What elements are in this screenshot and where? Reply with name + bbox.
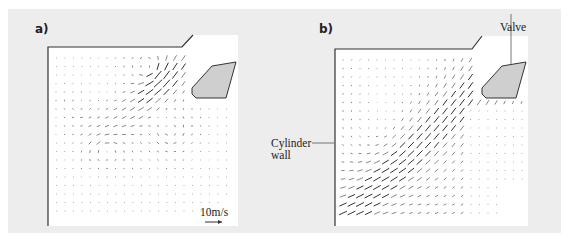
velocity-vector: [368, 68, 369, 69]
velocity-vector: [368, 128, 369, 129]
cylinder-wall-annotation-line2: wall: [271, 149, 291, 161]
velocity-vector: [470, 119, 471, 120]
velocity-vector: [411, 68, 412, 69]
panel-b-plot: [312, 14, 528, 226]
velocity-vector: [419, 60, 420, 61]
velocity-vector: [470, 111, 471, 112]
velocity-vector: [479, 111, 480, 112]
figure-svg: 10m/s: [0, 0, 569, 241]
velocity-vector: [158, 168, 159, 169]
velocity-vector: [377, 94, 378, 95]
velocity-vector: [368, 60, 369, 61]
velocity-vector: [368, 77, 369, 78]
panel-b-chamber: [335, 36, 528, 226]
cylinder-wall-annotation-line1: Cylinder: [271, 137, 311, 149]
velocity-vector: [115, 177, 116, 178]
valve-annotation: Valve: [500, 21, 526, 33]
velocity-vector: [360, 77, 361, 78]
velocity-vector: [64, 83, 65, 84]
panel-a-plot: 10m/s: [48, 35, 238, 226]
velocity-vector: [56, 117, 57, 118]
velocity-vector: [73, 83, 74, 84]
panel-a-chamber: [48, 35, 238, 226]
velocity-vector: [200, 151, 201, 152]
velocity-vector: [368, 85, 369, 86]
scale-label: 10m/s: [200, 206, 229, 218]
velocity-vector: [360, 68, 361, 69]
velocity-vector: [149, 168, 150, 169]
velocity-vector: [90, 177, 91, 178]
